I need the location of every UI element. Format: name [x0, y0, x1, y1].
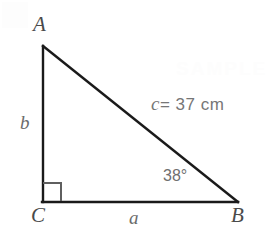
diagram-canvas: A C B b a c= 37 cm 38° SAMPLE — [0, 0, 272, 242]
hypotenuse-value: 37 — [176, 95, 196, 114]
angle-label-b: 38° — [163, 168, 187, 184]
right-angle-marker-icon — [43, 183, 61, 201]
vertex-label-c: C — [31, 205, 45, 226]
watermark: SAMPLE — [176, 58, 268, 84]
vertex-label-b: B — [231, 205, 244, 226]
vertex-label-a: A — [33, 14, 46, 35]
side-label-b: b — [20, 113, 30, 132]
hypotenuse-variable: c — [151, 93, 160, 114]
side-label-a: a — [129, 208, 139, 227]
hypotenuse-equals: = — [160, 95, 170, 114]
hypotenuse-unit: cm — [201, 95, 225, 114]
hypotenuse-measure-label: c= 37 cm — [151, 94, 224, 113]
